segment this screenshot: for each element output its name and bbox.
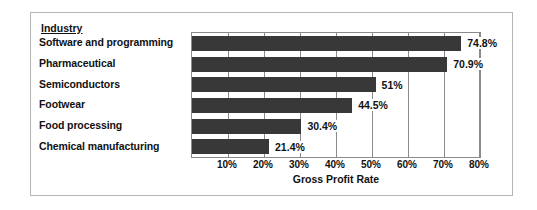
- category-label: Food processing: [39, 115, 191, 136]
- bar-value-label: 51%: [380, 79, 405, 91]
- x-axis-tick-label: 60%: [397, 159, 417, 170]
- x-axis-tick-label: 30%: [289, 159, 309, 170]
- x-axis-tick-label: 20%: [253, 159, 273, 170]
- bar: [192, 119, 301, 134]
- bar-row: 70.9%: [192, 54, 480, 75]
- category-label: Chemical manufacturing: [39, 135, 191, 156]
- bar-series: 74.8% 70.9% 51% 44.5% 30.4% 21.4%: [192, 33, 480, 157]
- category-label: Semiconductors: [39, 73, 191, 94]
- category-label-column: Software and programming Pharmaceutical …: [39, 32, 191, 156]
- x-axis-tick-label: 40%: [325, 159, 345, 170]
- bar-value-label: 21.4%: [273, 141, 307, 153]
- bar-row: 21.4%: [192, 136, 480, 157]
- plot-area: 74.8% 70.9% 51% 44.5% 30.4% 21.4%: [191, 32, 481, 158]
- x-axis-tick-labels: 10%20%30%40%50%60%70%80%: [191, 159, 481, 173]
- x-axis-tick-label: 50%: [361, 159, 381, 170]
- bar-row: 51%: [192, 74, 480, 95]
- bar: [192, 98, 352, 113]
- bar: [192, 77, 376, 92]
- bar-row: 74.8%: [192, 33, 480, 54]
- x-axis-tick-label: 70%: [433, 159, 453, 170]
- bar-row: 30.4%: [192, 116, 480, 137]
- bar: [192, 57, 447, 72]
- category-label: Pharmaceutical: [39, 53, 191, 74]
- x-axis-tick-label: 80%: [469, 159, 489, 170]
- category-label: Software and programming: [39, 32, 191, 53]
- bar-value-label: 44.5%: [356, 99, 390, 111]
- x-axis-tick-label: 10%: [217, 159, 237, 170]
- bar: [192, 36, 461, 51]
- bar: [192, 139, 269, 154]
- bar-value-label: 30.4%: [305, 120, 339, 132]
- chart-frame: Industry Software and programming Pharma…: [30, 12, 513, 196]
- x-axis-title: Gross Profit Rate: [191, 173, 481, 185]
- bar-value-label: 74.8%: [465, 37, 499, 49]
- bar-row: 44.5%: [192, 95, 480, 116]
- category-label: Footwear: [39, 94, 191, 115]
- bar-value-label: 70.9%: [451, 58, 485, 70]
